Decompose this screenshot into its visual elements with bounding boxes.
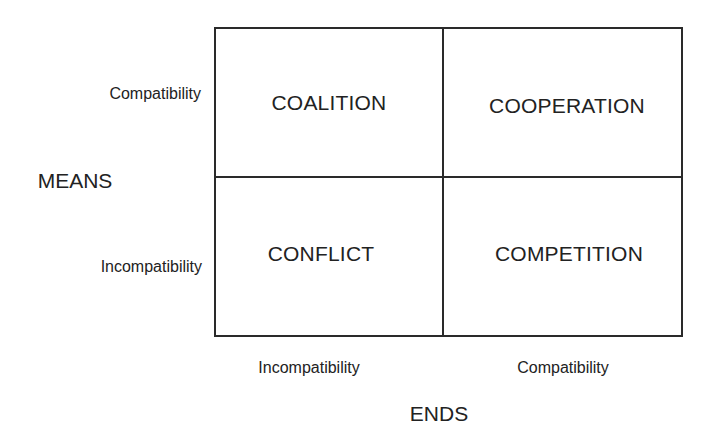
quadrant-coalition: COALITION xyxy=(272,91,387,115)
y-axis-title: MEANS xyxy=(38,169,113,193)
quadrant-competition: COMPETITION xyxy=(495,242,643,266)
quadrant-conflict: CONFLICT xyxy=(268,242,375,266)
quadrant-cooperation: COOPERATION xyxy=(489,94,645,118)
horizontal-divider xyxy=(216,176,681,178)
x-axis-title: ENDS xyxy=(410,402,468,426)
matrix-grid xyxy=(214,27,683,337)
x-tick-compatibility: Compatibility xyxy=(517,359,609,377)
y-tick-incompatibility: Incompatibility xyxy=(101,258,202,276)
x-tick-incompatibility: Incompatibility xyxy=(258,359,359,377)
vertical-divider xyxy=(442,29,444,335)
y-tick-compatibility: Compatibility xyxy=(109,85,201,103)
